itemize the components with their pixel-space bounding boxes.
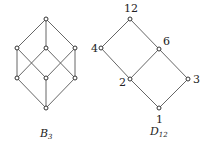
b3-node-top <box>44 17 48 21</box>
d12-node-12 <box>128 17 132 21</box>
b3-node <box>44 76 48 80</box>
b3-node-bottom <box>44 106 48 110</box>
b3-node <box>44 46 48 50</box>
label-4: 4 <box>91 42 98 55</box>
b3-node <box>15 46 19 50</box>
d12-node-2 <box>128 77 132 81</box>
hasse-diagrams: B3 12 4 6 2 3 1 D12 <box>0 0 211 148</box>
b3-node <box>15 76 19 80</box>
d12-caption: D12 <box>149 125 168 139</box>
label-12: 12 <box>124 2 138 15</box>
b3-node <box>73 46 77 50</box>
d12-node-3 <box>186 77 190 81</box>
label-3: 3 <box>193 73 200 86</box>
b3-diagram: B3 <box>15 17 77 141</box>
d12-node-6 <box>157 47 161 51</box>
d12-node-4 <box>99 46 103 50</box>
d12-node-1 <box>157 106 161 110</box>
b3-caption: B3 <box>39 127 53 141</box>
label-2: 2 <box>119 76 126 89</box>
label-6: 6 <box>163 35 170 48</box>
b3-node <box>73 76 77 80</box>
d12-diagram: 12 4 6 2 3 1 D12 <box>91 2 200 139</box>
